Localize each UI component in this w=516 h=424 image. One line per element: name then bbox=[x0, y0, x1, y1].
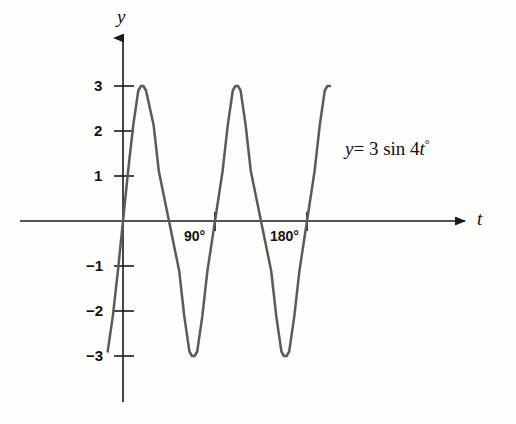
y-tick-label-minus-3: −3 bbox=[86, 347, 103, 364]
plot-canvas bbox=[0, 0, 516, 424]
t-axis-label: t bbox=[477, 208, 482, 230]
t-tick-label-180: 180° bbox=[270, 228, 299, 244]
y-tick-label-2: 2 bbox=[94, 122, 102, 139]
t-tick-label-90: 90° bbox=[184, 228, 205, 244]
y-tick-label-minus-2: −2 bbox=[86, 302, 103, 319]
y-tick-label-3: 3 bbox=[94, 77, 102, 94]
sine-graph-figure: y t 3 2 1 −1 −2 −3 90° 180° y= 3 sin 4t° bbox=[0, 0, 516, 424]
equation-degree-symbol: ° bbox=[425, 137, 430, 151]
equation-body: = 3 sin 4 bbox=[353, 138, 419, 159]
y-tick-label-minus-1: −1 bbox=[86, 257, 103, 274]
y-tick-label-1: 1 bbox=[94, 167, 102, 184]
equation-annotation: y= 3 sin 4t° bbox=[345, 137, 430, 160]
y-axis-label: y bbox=[117, 6, 125, 28]
